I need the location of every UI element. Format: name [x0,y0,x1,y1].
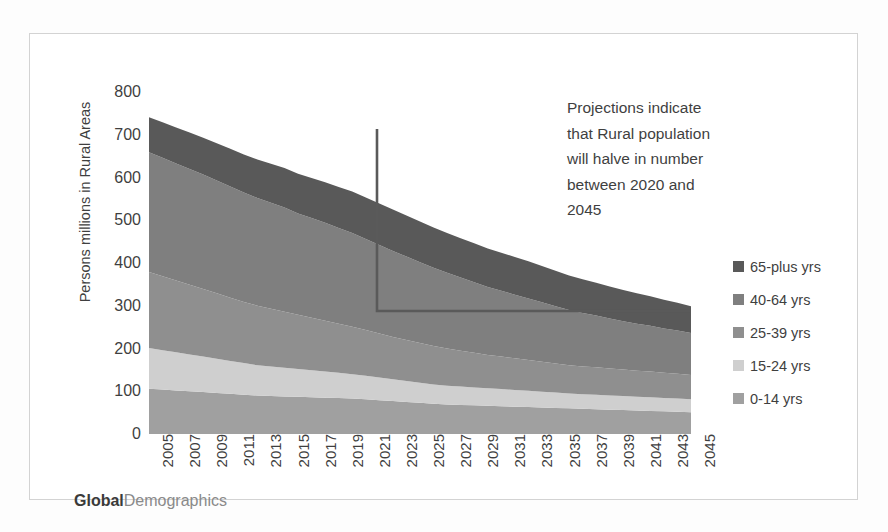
legend-swatch-icon [733,294,744,305]
chart-frame: Persons millions in Rural Areas 80070060… [29,33,858,500]
annotation-line: that Rural population [567,121,777,147]
legend-item-label: 15-24 yrs [750,358,810,374]
x-axis-tick-label: 2041 [647,434,664,490]
x-axis-tick-label: 2029 [484,434,501,490]
y-axis-tick-label: 500 [89,212,141,228]
x-axis-tick-label: 2035 [566,434,583,490]
annotation-line: will halve in number [567,146,777,172]
y-axis-tick-label: 600 [89,170,141,186]
x-axis-ticks: 2005200720092011201320152017201920212023… [149,438,691,494]
annotation-line: 2045 [567,197,777,223]
x-axis-tick-label: 2015 [295,434,312,490]
brand-name-strong: Global [74,492,124,509]
legend-item-label: 65-plus yrs [750,259,821,275]
y-axis-tick-label: 400 [89,255,141,271]
legend-item[interactable]: 65-plus yrs [733,250,873,283]
annotation-line: between 2020 and [567,172,777,198]
x-axis-tick-label: 2025 [430,434,447,490]
legend-item-label: 25-39 yrs [750,325,810,341]
legend-item[interactable]: 15-24 yrs [733,349,873,382]
x-axis-tick-label: 2013 [267,434,284,490]
legend-item-label: 0-14 yrs [750,391,802,407]
brand-footer: GlobalDemographics [74,492,227,510]
chart-figure: Persons millions in Rural Areas 80070060… [0,0,888,532]
x-axis-tick-label: 2017 [322,434,339,490]
x-axis-tick-label: 2033 [538,434,555,490]
legend-swatch-icon [733,393,744,404]
x-axis-tick-label: 2039 [620,434,637,490]
y-axis-tick-label: 800 [89,84,141,100]
chart-legend: 65-plus yrs40-64 yrs25-39 yrs15-24 yrs0-… [733,250,873,415]
x-axis-tick-label: 2007 [186,434,203,490]
x-axis-tick-label: 2043 [674,434,691,490]
x-axis-tick-label: 2009 [213,434,230,490]
x-axis-tick-label: 2027 [457,434,474,490]
y-axis-tick-label: 200 [89,341,141,357]
legend-item[interactable]: 0-14 yrs [733,382,873,415]
x-axis-tick-label: 2005 [159,434,176,490]
projection-annotation: Projections indicatethat Rural populatio… [567,95,777,223]
y-axis-tick-label: 100 [89,383,141,399]
y-axis-tick-label: 700 [89,127,141,143]
x-axis-tick-label: 2019 [349,434,366,490]
legend-item[interactable]: 40-64 yrs [733,283,873,316]
legend-swatch-icon [733,261,744,272]
legend-swatch-icon [733,360,744,371]
brand-name-light: Demographics [124,492,227,509]
x-axis-tick-label: 2023 [403,434,420,490]
annotation-line: Projections indicate [567,95,777,121]
legend-swatch-icon [733,327,744,338]
x-axis-tick-label: 2045 [701,434,718,490]
y-axis-tick-label: 0 [89,426,141,442]
legend-item-label: 40-64 yrs [750,292,810,308]
x-axis-tick-label: 2031 [511,434,528,490]
legend-item[interactable]: 25-39 yrs [733,316,873,349]
x-axis-tick-label: 2011 [240,434,257,490]
x-axis-tick-label: 2037 [593,434,610,490]
y-axis-tick-label: 300 [89,298,141,314]
x-axis-tick-label: 2021 [376,434,393,490]
y-axis-ticks: 8007006005004003002001000 [85,92,141,434]
